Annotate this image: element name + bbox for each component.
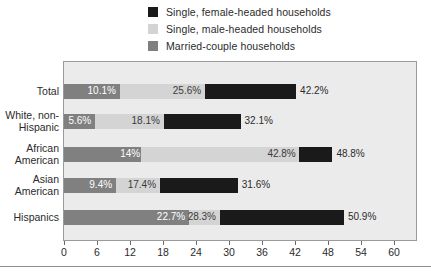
- bar-value-label-2-1: 42.8%: [267, 148, 295, 159]
- category-label-line: Hispanic: [0, 122, 59, 134]
- axis-tick-10: [394, 241, 395, 245]
- bar-row-3: 9.4%17.4%31.6%: [64, 178, 416, 193]
- axis-tick-4: [196, 241, 197, 245]
- legend-swatch-single_male: [148, 24, 158, 34]
- legend-label-single_male: Single, male-headed households: [166, 23, 322, 35]
- bar-row-0: 10.1%25.6%42.2%: [64, 84, 416, 99]
- axis-tick-1: [97, 241, 98, 245]
- axis-tick-label-9: 54: [355, 246, 367, 258]
- legend-swatch-single_female: [148, 7, 158, 17]
- bar-row-2: 14%42.8%48.8%: [64, 147, 416, 162]
- category-label-line: American: [0, 155, 59, 167]
- bar-segment-0-2: [205, 84, 296, 99]
- category-label-line: African: [0, 143, 59, 155]
- legend-label-married_couple: Married-couple households: [166, 40, 295, 52]
- legend-swatch-married_couple: [148, 41, 158, 51]
- axis-tick-7: [295, 241, 296, 245]
- axis-tick-5: [229, 241, 230, 245]
- axis-tick-label-7: 42: [289, 246, 301, 258]
- axis-tick-label-4: 24: [190, 246, 202, 258]
- bar-value-label-1-0: 5.6%: [68, 115, 91, 126]
- bar-value-label-1-1: 18.1%: [132, 115, 160, 126]
- bar-value-label-0-0: 10.1%: [88, 85, 116, 96]
- bar-value-label-3-2: 31.6%: [242, 179, 270, 190]
- axis-tick-label-6: 36: [256, 246, 268, 258]
- bar-series-container: 10.1%25.6%42.2%5.6%18.1%32.1%14%42.8%48.…: [64, 62, 416, 240]
- category-label-2: AfricanAmerican: [0, 143, 59, 166]
- legend-item-single_female: Single, female-headed households: [148, 4, 408, 19]
- category-label-1: White, non-Hispanic: [0, 110, 59, 133]
- axis-tick-9: [361, 241, 362, 245]
- bar-value-label-3-0: 9.4%: [89, 179, 112, 190]
- axis-tick-label-0: 0: [61, 246, 67, 258]
- axis-tick-label-10: 60: [388, 246, 400, 258]
- axis-tick-2: [130, 241, 131, 245]
- category-label-line: Hispanics: [0, 212, 59, 224]
- category-axis-labels: TotalWhite, non-HispanicAfricanAmericanA…: [0, 61, 59, 241]
- bar-value-label-2-0: 14%: [120, 148, 140, 159]
- bar-value-label-0-2: 42.2%: [300, 85, 328, 96]
- axis-tick-label-8: 48: [322, 246, 334, 258]
- axis-tick-label-3: 18: [157, 246, 169, 258]
- bottom-rule: [0, 266, 431, 267]
- axis-tick-3: [163, 241, 164, 245]
- bar-value-label-1-2: 32.1%: [245, 115, 273, 126]
- category-label-4: Hispanics: [0, 212, 59, 224]
- bar-segment-1-2: [164, 114, 241, 129]
- axis-tick-8: [328, 241, 329, 245]
- chart-page: Single, female-headed householdsSingle, …: [0, 0, 431, 273]
- chart-legend: Single, female-headed householdsSingle, …: [148, 4, 408, 55]
- category-label-line: Asian: [0, 174, 59, 186]
- bar-row-4: 22.7%28.3%50.9%: [64, 210, 416, 225]
- axis-tick-label-5: 30: [223, 246, 235, 258]
- axis-tick-label-1: 6: [94, 246, 100, 258]
- bar-value-label-2-2: 48.8%: [336, 148, 364, 159]
- bar-segment-3-2: [160, 178, 238, 193]
- category-label-line: White, non-: [0, 110, 59, 122]
- bar-value-label-0-1: 25.6%: [173, 85, 201, 96]
- category-label-line: Total: [0, 86, 59, 98]
- bar-value-label-3-1: 17.4%: [128, 179, 156, 190]
- axis-tick-label-2: 12: [124, 246, 136, 258]
- axis-tick-0: [64, 241, 65, 245]
- bar-value-label-4-0: 22.7%: [157, 211, 185, 222]
- legend-item-single_male: Single, male-headed households: [148, 21, 408, 36]
- category-label-3: AsianAmerican: [0, 174, 59, 197]
- legend-label-single_female: Single, female-headed households: [166, 6, 331, 18]
- value-axis: 06121824303642485460: [63, 241, 417, 265]
- bar-segment-2-2: [299, 147, 332, 162]
- category-label-0: Total: [0, 86, 59, 98]
- category-label-line: American: [0, 186, 59, 198]
- bar-value-label-4-2: 50.9%: [348, 211, 376, 222]
- axis-tick-6: [262, 241, 263, 245]
- legend-item-married_couple: Married-couple households: [148, 38, 408, 53]
- bar-row-1: 5.6%18.1%32.1%: [64, 114, 416, 129]
- bar-segment-4-2: [220, 210, 344, 225]
- bar-value-label-4-1: 28.3%: [188, 211, 216, 222]
